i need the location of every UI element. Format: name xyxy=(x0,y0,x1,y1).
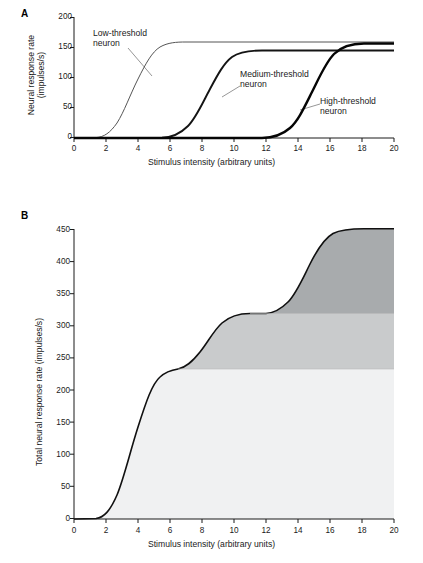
neural-response-figure: A Neural response rate (impulses/s) 200 … xyxy=(0,0,423,563)
curve-high-threshold xyxy=(74,44,394,139)
panel-b-plot xyxy=(0,190,423,563)
panel-a: A Neural response rate (impulses/s) 200 … xyxy=(0,0,423,190)
curve-medium-threshold xyxy=(74,51,394,139)
panel-a-leader-lines xyxy=(128,48,320,110)
band-low-only xyxy=(74,369,394,519)
panel-a-y-ticks xyxy=(70,18,74,138)
leader-medium xyxy=(222,86,240,97)
panel-a-axis-lines xyxy=(74,17,394,138)
panel-b: B Total neural response rate (impulses/s… xyxy=(0,190,423,563)
panel-b-y-ticks xyxy=(70,230,74,519)
panel-b-x-ticks xyxy=(74,519,394,523)
leader-low xyxy=(128,48,152,76)
panel-a-plot xyxy=(0,0,423,190)
